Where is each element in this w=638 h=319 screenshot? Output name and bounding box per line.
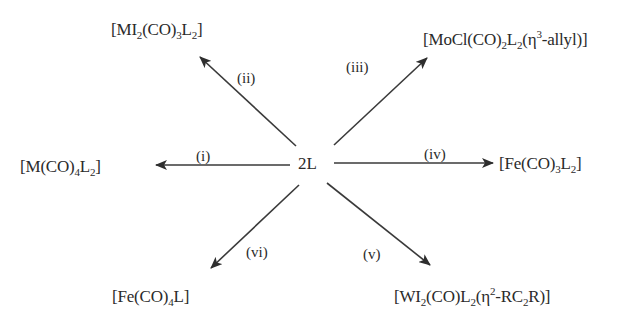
product-v: [WI2(CO)L2(η2-RC2R)] [394,287,550,307]
formula-part: [Fe(CO) [499,154,555,173]
formula-part: -RC [495,287,523,306]
formula-part: [MI [111,20,137,39]
formula-part: [Fe(CO) [112,287,168,306]
formula-part: ] [197,20,202,39]
formula-part: (η [522,30,536,49]
formula-part: [WI [394,287,421,306]
formula-part: ] [576,154,581,173]
formula-part: L [182,20,192,39]
formula-part: (CO)L [426,287,470,306]
condition-v: (v) [363,245,381,263]
formula-part: L [561,154,571,173]
formula-part: L [507,30,517,49]
condition-i: (i) [196,147,210,165]
reaction-scheme: 2L (i) (ii) (iii) (iv) (v) (vi) [M(CO)4L… [0,0,638,319]
formula-part: ] [95,157,100,176]
formula-part: (CO) [142,20,176,39]
product-iv: [Fe(CO)3L2] [499,154,581,174]
condition-iii: (iii) [346,58,369,76]
center-reagent-2L: 2L [298,154,317,174]
condition-ii: (ii) [237,69,255,87]
condition-vi: (vi) [246,243,268,261]
formula-part: L] [174,287,190,306]
formula-part: [MoCl(CO) [423,30,501,49]
product-iii: [MoCl(CO)2L2(η3-allyl)] [423,30,587,50]
product-ii: [MI2(CO)3L2] [111,20,203,40]
formula-part: L [80,157,90,176]
formula-part: [M(CO) [20,157,75,176]
formula-part: R)] [528,287,550,306]
product-i: [M(CO)4L2] [20,157,101,177]
formula-part: -allyl)] [542,30,588,49]
product-vi: [Fe(CO)4L] [112,287,189,307]
formula-part: (η [476,287,490,306]
condition-iv: (iv) [424,145,446,163]
